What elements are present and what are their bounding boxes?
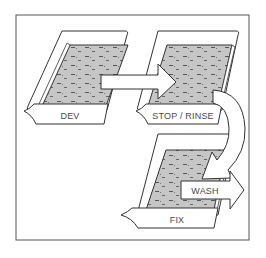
process-diagram: DEV STOP / RINSE FIX WASH [0, 0, 266, 258]
tray-label-stop-rinse: STOP / RINSE [152, 111, 214, 121]
wash-label: WASH [191, 186, 218, 196]
tray-label-fix: FIX [170, 215, 185, 225]
tray-label-dev: DEV [60, 111, 79, 121]
